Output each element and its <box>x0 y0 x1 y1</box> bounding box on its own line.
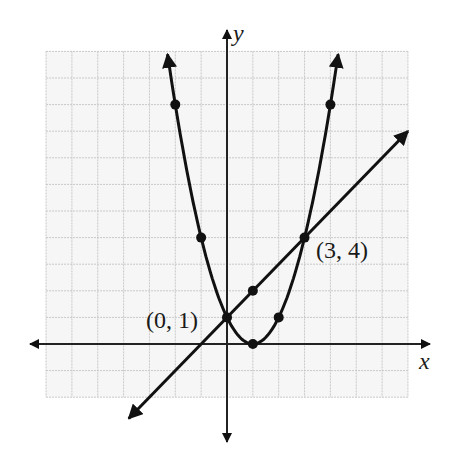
data-point <box>248 339 258 349</box>
data-point <box>274 312 284 322</box>
data-point <box>300 233 310 243</box>
x-axis-label: x <box>418 348 430 374</box>
data-point <box>248 286 258 296</box>
data-point <box>325 100 335 110</box>
point-label-0-1: (0, 1) <box>146 307 198 333</box>
data-point <box>222 312 232 322</box>
y-axis-label: y <box>231 20 244 46</box>
data-point <box>196 233 206 243</box>
graph-figure: x y (0, 1) (3, 4) <box>0 0 455 468</box>
data-point <box>170 100 180 110</box>
point-label-3-4: (3, 4) <box>316 237 368 263</box>
